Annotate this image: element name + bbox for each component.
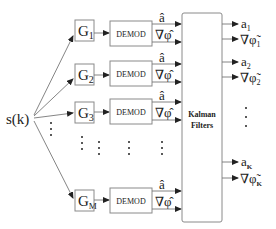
demod-label-2: DEMOD [116, 70, 146, 79]
amplitude-output-1: a1 [241, 16, 251, 33]
phase-gradient-estimate-3: ∇φ̂ [155, 105, 175, 120]
fan-out-arrows [34, 36, 73, 198]
demod-label-m: DEMOD [116, 197, 146, 206]
filters-label: Filters [191, 121, 213, 130]
branch-2: G2 DEMOD â ∇φ̂ [75, 50, 181, 86]
kalman-filter-bank-diagram: s(k) G1 DEMOD â ∇φ̂ G2 DEMOD â ∇φ̂ [0, 0, 276, 229]
demod-label-3: DEMOD [116, 108, 146, 117]
output-2: a2 ∇φ̃2 [222, 54, 262, 87]
branch-m: GM DEMOD â ∇φ̂ [75, 177, 181, 213]
amplitude-estimate-2: â [159, 50, 165, 65]
amplitude-output-k: aK [241, 154, 253, 171]
phase-gradient-estimate-2: ∇φ̂ [155, 67, 175, 82]
branch-1: G1 DEMOD â ∇φ̂ [75, 10, 181, 46]
kalman-filter-block: Kalman Filters [182, 13, 222, 222]
phase-gradient-output-1: ∇φ̃1 [240, 32, 262, 49]
amplitude-estimate-m: â [159, 177, 165, 192]
output-ellipsis [245, 107, 247, 127]
phase-gradient-output-2: ∇φ̃2 [240, 70, 262, 87]
amplitude-estimate-3: â [159, 88, 165, 103]
phase-gradient-estimate-m: ∇φ̂ [155, 194, 175, 209]
input-signal-label: s(k) [6, 111, 29, 128]
demod-label-1: DEMOD [116, 30, 146, 39]
amplitude-output-2: a2 [241, 54, 251, 71]
output-1: a1 ∇φ̃1 [222, 16, 262, 49]
kalman-label: Kalman [188, 110, 216, 119]
fan-ellipsis [50, 122, 52, 136]
phase-gradient-output-k: ∇φ̃K [240, 171, 263, 188]
phase-gradient-estimate-1: ∇φ̂ [155, 27, 175, 42]
amplitude-estimate-1: â [159, 10, 165, 25]
branch-3: G3 DEMOD â ∇φ̂ [75, 88, 181, 124]
branch-ellipsis [81, 136, 163, 155]
output-k: aK ∇φ̃K [222, 154, 263, 188]
